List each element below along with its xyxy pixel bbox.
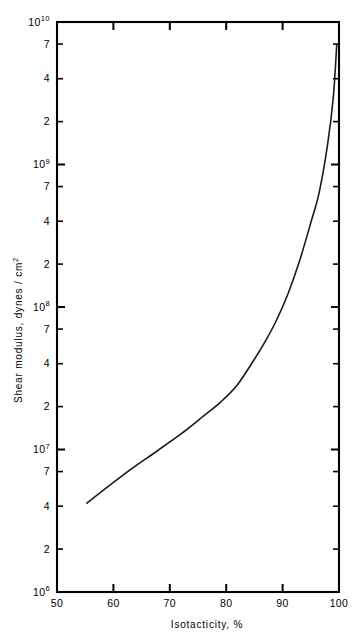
x-tick-label: 90 (276, 597, 288, 609)
y-tick-label: 2 (44, 543, 50, 555)
chart-figure: 1010742109742108742107742106 50607080901… (0, 0, 360, 642)
x-tick-label: 100 (330, 597, 349, 609)
y-axis-tick-labels: 1010742109742108742107742106 (28, 14, 50, 597)
y-tick-label: 7 (44, 465, 50, 477)
x-axis-ticks-top (57, 22, 339, 30)
y-tick-label: 4 (44, 72, 50, 84)
data-series-line (87, 45, 337, 503)
x-axis-ticks-bottom (57, 584, 339, 592)
x-tick-label: 70 (164, 597, 176, 609)
shear-modulus-vs-isotacticity-chart: 1010742109742108742107742106 50607080901… (0, 0, 360, 642)
y-tick-label: 2 (44, 400, 50, 412)
y-tick-label: 2 (44, 115, 50, 127)
y-axis-title: Shear modulus, dynes / cm2 (11, 257, 24, 403)
y-tick-label: 7 (44, 180, 50, 192)
x-axis-tick-labels: 5060708090100 (51, 597, 349, 609)
x-tick-label: 80 (220, 597, 232, 609)
y-axis-title-exponent: 2 (11, 257, 20, 262)
y-tick-label: 1010 (28, 14, 50, 27)
y-axis-ticks-left (57, 22, 65, 592)
y-tick-label: 4 (44, 357, 50, 369)
y-tick-label: 7 (44, 323, 50, 335)
x-tick-label: 60 (107, 597, 119, 609)
y-tick-label: 4 (44, 215, 50, 227)
x-tick-label: 50 (51, 597, 63, 609)
y-axis-title-text: Shear modulus, dynes / cm (13, 262, 24, 403)
plot-frame (57, 22, 339, 592)
x-axis-title: Isotacticity, % (171, 619, 243, 630)
y-tick-label: 7 (44, 38, 50, 50)
y-tick-label: 106 (33, 584, 50, 597)
y-tick-label: 109 (33, 157, 50, 170)
y-tick-label: 2 (44, 258, 50, 270)
y-tick-label: 107 (33, 442, 50, 455)
y-tick-label: 108 (33, 299, 50, 312)
y-tick-label: 4 (44, 500, 50, 512)
